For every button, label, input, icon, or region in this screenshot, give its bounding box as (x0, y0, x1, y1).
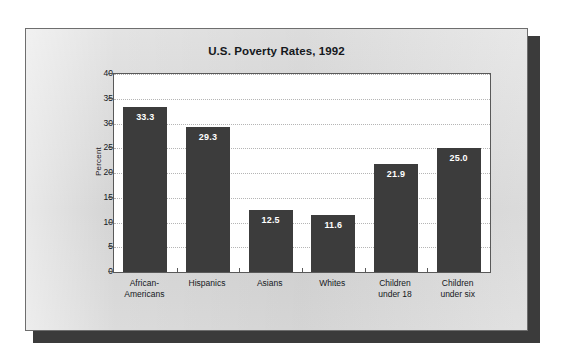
bar-slot: 11.6 (302, 74, 365, 272)
x-label-line: Hispanics (176, 278, 239, 289)
y-axis: Percent 0510152025303540 (81, 73, 113, 273)
bar-slot: 25.0 (427, 74, 490, 272)
bar[interactable]: 25.0 (437, 148, 481, 272)
x-category-label: Childrenunder 18 (364, 278, 427, 300)
x-category-label: Asians (238, 278, 301, 289)
x-label-line: Children (364, 278, 427, 289)
bar-slot: 12.5 (239, 74, 302, 272)
x-category-label: African-Americans (113, 278, 176, 300)
x-label-line: under six (426, 289, 489, 300)
bar-value-label: 33.3 (123, 112, 167, 122)
bar-value-label: 12.5 (249, 215, 293, 225)
x-category-label: Hispanics (176, 278, 239, 289)
bar[interactable]: 29.3 (186, 127, 230, 272)
bar-slot: 33.3 (114, 74, 177, 272)
y-axis-title: Percent (94, 127, 103, 197)
x-axis-category-labels: African-AmericansHispanicsAsiansWhitesCh… (113, 278, 491, 312)
bar-value-label: 21.9 (374, 169, 418, 179)
bar-value-label: 25.0 (437, 153, 481, 163)
chart-title: U.S. Poverty Rates, 1992 (26, 45, 527, 57)
x-tick-mark (239, 268, 240, 272)
x-tick-mark (427, 268, 428, 272)
x-label-line: Whites (301, 278, 364, 289)
bar-slot: 29.3 (177, 74, 240, 272)
bar-value-label: 29.3 (186, 132, 230, 142)
x-tick-mark (365, 268, 366, 272)
bar-slot: 21.9 (365, 74, 428, 272)
plot-area: 33.329.312.511.621.925.0 (113, 73, 491, 273)
x-label-line: under 18 (364, 289, 427, 300)
bar-value-label: 11.6 (311, 220, 355, 230)
bar[interactable]: 21.9 (374, 164, 418, 272)
bar[interactable]: 11.6 (311, 215, 355, 272)
x-label-line: Asians (238, 278, 301, 289)
x-label-line: Children (426, 278, 489, 289)
x-tick-mark (302, 268, 303, 272)
bar[interactable]: 12.5 (249, 210, 293, 272)
x-category-label: Childrenunder six (426, 278, 489, 300)
x-category-label: Whites (301, 278, 364, 289)
bar[interactable]: 33.3 (123, 107, 167, 272)
x-label-line: African- (113, 278, 176, 289)
chart-card: U.S. Poverty Rates, 1992 Percent 0510152… (25, 28, 528, 331)
x-label-line: Americans (113, 289, 176, 300)
x-tick-mark (177, 268, 178, 272)
